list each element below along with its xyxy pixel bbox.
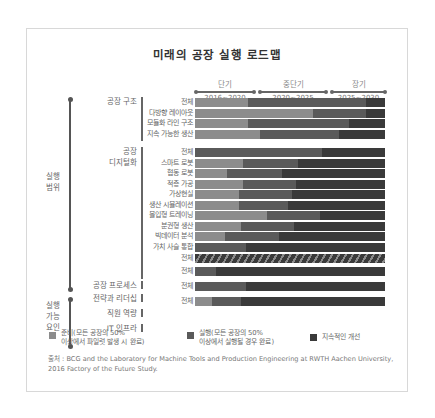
bar-segment-cont (288, 201, 385, 210)
bar-segment-exec (260, 130, 340, 139)
bar-segment-exec (195, 282, 246, 291)
stacked-bar (195, 119, 385, 128)
bar-row: 전체 (27, 267, 409, 277)
bar-segment-prep (195, 232, 225, 241)
bar-segment-prep (195, 211, 267, 220)
bar-segment-exec (243, 180, 296, 189)
bar-row: 생산 시뮬레이션 (27, 201, 409, 211)
bar-segment-cont (241, 297, 385, 306)
bar-row: 몰입형 트레이닝 (27, 211, 409, 221)
bar-row: 협동 로봇 (27, 169, 409, 179)
bar-segment-cont (349, 119, 385, 128)
stacked-bar (195, 222, 385, 231)
row-label: 전체 (181, 97, 193, 108)
row-label: 생산 시뮬레이션 (149, 200, 193, 211)
bar-segment-exec (267, 211, 320, 220)
row-label: 가치 사슬 통합 (153, 242, 193, 253)
bar-row: 빅데이터 분석 (27, 232, 409, 242)
row-label: 빅데이터 분석 (155, 231, 193, 242)
bar-segment-cont (322, 148, 385, 157)
timeline-line (332, 91, 385, 93)
bar-segment-exec (248, 119, 349, 128)
row-label: 전체 (181, 147, 193, 158)
row-label: 모듈화 라인 구조 (147, 118, 193, 129)
bar-row: 분권형 생산 (27, 222, 409, 232)
stacked-bar (195, 130, 385, 139)
bar-segment-exec (313, 109, 366, 118)
row-label: 분권형 생산 (161, 221, 193, 232)
row-label: 전체 (181, 253, 193, 264)
bar-segment-prep (195, 201, 239, 210)
legend-continuous: 지속적인 개선 (310, 333, 360, 342)
legend-swatch (49, 332, 56, 339)
bar-row: 전체 (27, 297, 409, 307)
stacked-bar (195, 98, 385, 107)
stacked-bar (195, 159, 385, 168)
bar-segment-prep (195, 190, 239, 199)
stacked-bar (195, 148, 385, 157)
row-label: 전체 (181, 266, 193, 277)
row-label: 다방향 레이아웃 (149, 108, 193, 119)
stacked-bar (195, 169, 385, 178)
group-employee-skills: 직원 역량 (67, 308, 137, 319)
bar-segment-prep (195, 169, 227, 178)
bar-segment-cont (246, 243, 385, 252)
legend-swatch (187, 332, 194, 339)
bar-segment-exec (195, 148, 322, 157)
bar-row: 스마트 로봇 (27, 159, 409, 169)
stacked-bar (195, 282, 385, 291)
row-label: 가상현실 (169, 189, 193, 200)
row-label: 몰입형 트레이닝 (149, 210, 193, 221)
bar-segment-exec (195, 243, 246, 252)
row-label: 협동 로봇 (167, 168, 193, 179)
bar-segment-hatch (195, 254, 385, 263)
stacked-bar (195, 243, 385, 252)
bar-segment-cont (296, 180, 385, 189)
timeline-line (196, 91, 254, 93)
bar-row: 전체 (27, 282, 409, 292)
legend-swatch (310, 334, 317, 341)
bar-segment-prep (195, 130, 260, 139)
stacked-bar (195, 267, 385, 276)
bar-segment-exec (239, 190, 292, 199)
stacked-bar (195, 109, 385, 118)
row-label: 스마트 로봇 (161, 158, 193, 169)
legend-exec: 실행(모든 공장의 50% 이상에서 실행될 경우 완료) (187, 329, 274, 347)
bar-segment-cont (366, 109, 385, 118)
row-label: 지속 가능한 생산 (147, 129, 193, 140)
bar-row: 전체 (27, 254, 409, 264)
stacked-bar (195, 201, 385, 210)
group-bracket (141, 309, 143, 317)
bar-segment-prep (195, 119, 248, 128)
bar-segment-cont (320, 211, 385, 220)
stacked-bar (195, 211, 385, 220)
legend-prep: 준비(모든 공장의 50% 이상에서 파일럿 발생 시 완료) (49, 329, 144, 347)
stacked-bar (195, 232, 385, 241)
bar-segment-prep (195, 98, 248, 107)
bar-segment-exec (239, 201, 288, 210)
stacked-bar (195, 297, 385, 306)
row-label: 전체 (181, 281, 193, 292)
stacked-bar (195, 254, 385, 263)
bar-segment-exec (225, 232, 278, 241)
bar-segment-cont (366, 98, 385, 107)
bar-segment-cont (294, 222, 385, 231)
stacked-bar (195, 180, 385, 189)
bar-segment-exec (241, 222, 294, 231)
bar-row: 가치 사슬 통합 (27, 243, 409, 253)
bar-segment-exec (248, 98, 366, 107)
bar-segment-cont (246, 282, 385, 291)
chart-frame: 미래의 공장 실행 로드맵 단기 2016~2020 중단기 2020~2025… (26, 28, 408, 392)
stacked-bar (195, 190, 385, 199)
bar-row: 가상현실 (27, 190, 409, 200)
row-label: 전체 (181, 296, 193, 307)
bar-segment-cont (282, 169, 385, 178)
bar-segment-prep (195, 109, 313, 118)
bar-row: 전체 (27, 98, 409, 108)
bar-row: 다방향 레이아웃 (27, 109, 409, 119)
bar-segment-cont (292, 190, 385, 199)
bar-segment-cont (298, 159, 385, 168)
bar-segment-cont (279, 232, 385, 241)
bar-segment-prep (195, 297, 212, 306)
row-label: 적층 가공 (167, 179, 193, 190)
